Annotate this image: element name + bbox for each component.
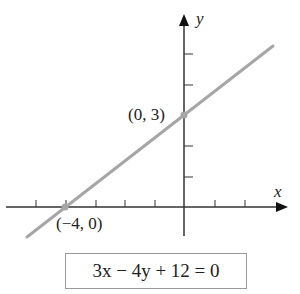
equation-box: 3x − 4y + 12 = 0	[65, 253, 247, 289]
point-y-intercept	[181, 112, 188, 119]
equation-text: 3x − 4y + 12 = 0	[92, 260, 219, 282]
x-axis-arrow-icon	[276, 202, 288, 212]
point-x-intercept	[62, 204, 69, 211]
graph-canvas	[0, 0, 300, 294]
y-axis-label: y	[196, 10, 204, 27]
x-axis-label: x	[274, 183, 282, 200]
y-axis-arrow-icon	[179, 14, 189, 26]
point-label-y-intercept: (0, 3)	[128, 106, 165, 123]
point-label-x-intercept: (−4, 0)	[56, 215, 102, 232]
